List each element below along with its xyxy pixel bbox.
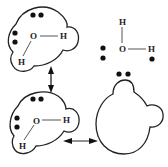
- lone-pair-dot: [12, 30, 17, 35]
- resonance-arrow-vertical: [48, 66, 54, 93]
- lone-pair-dot: [125, 71, 130, 76]
- water-molecule-diagram: O H H O H H H O H: [0, 0, 168, 167]
- lone-pair-dot: [38, 12, 43, 17]
- electron-dot: [149, 56, 154, 61]
- hydrogen-atom-lower: H: [19, 141, 26, 151]
- hydrogen-atom-top: H: [119, 17, 126, 27]
- hydrogen-atom-right: H: [148, 44, 155, 54]
- lone-pair-dot: [14, 115, 19, 120]
- molecule-upper-left: O H H: [8, 7, 78, 71]
- lone-pair-dot: [100, 45, 105, 50]
- arrow-head-right-icon: [89, 138, 98, 144]
- oxygen-atom: O: [30, 31, 37, 41]
- oxygen-atom: O: [33, 116, 40, 126]
- molecule-lower-left: O H H: [10, 92, 79, 154]
- arrow-head-left-icon: [63, 138, 72, 144]
- lone-pair-dot: [30, 96, 35, 101]
- hydrogen-atom-right: H: [63, 115, 70, 125]
- lone-pair-dot: [100, 55, 105, 60]
- arrow-head-up-icon: [48, 66, 54, 74]
- lone-pair-dot: [38, 96, 43, 101]
- electron-cloud-outline: [96, 80, 163, 154]
- hydrogen-atom-lower: H: [18, 57, 25, 67]
- lone-pair-dot: [30, 12, 35, 17]
- bond-o-h-lower: [23, 41, 31, 56]
- oxygen-atom: O: [119, 44, 126, 54]
- hydrogen-atom-right: H: [60, 31, 67, 41]
- molecule-upper-right-lewis: H O H: [100, 17, 155, 62]
- lone-pair-dot: [116, 71, 121, 76]
- electron-cloud-lower-right: [96, 71, 163, 154]
- lone-pair-dot: [14, 124, 19, 129]
- resonance-arrow-horizontal: [63, 138, 98, 144]
- lone-pair-dot: [12, 39, 17, 44]
- bond-o-h-lower: [24, 125, 34, 140]
